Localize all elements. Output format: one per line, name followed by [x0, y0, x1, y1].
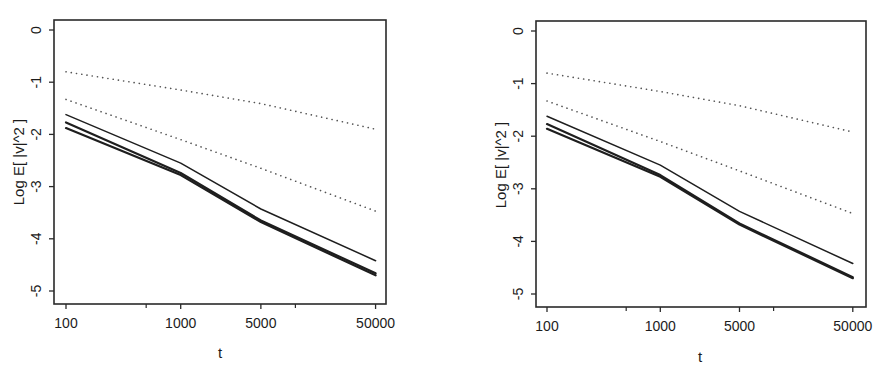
y-tick-label: -4: [510, 235, 526, 248]
y-tick-label: -3: [510, 182, 526, 195]
y-axis-label: Log E[ |v|^2 ]: [10, 119, 27, 206]
series-layer: [547, 73, 853, 278]
series-solid-upper: [66, 115, 376, 261]
y-tick-label: -3: [28, 180, 44, 193]
series-dotted-lower: [66, 99, 376, 211]
series-dotted-upper: [547, 73, 853, 132]
figure: 1001000500050000 0-1-2-3-4-5 t Log E[ |v…: [0, 0, 881, 372]
y-tick-label: -5: [28, 285, 44, 298]
x-axis: 1001000500050000: [535, 307, 872, 334]
x-tick-label: 1000: [165, 315, 196, 331]
y-tick-label: -5: [510, 288, 526, 301]
x-tick-label: 50000: [833, 318, 872, 334]
x-tick-label: 5000: [245, 315, 276, 331]
y-tick-label: -1: [510, 77, 526, 90]
y-axis-label: Log E[ |v|^2 ]: [492, 122, 509, 209]
y-tick-label: -2: [28, 128, 44, 141]
y-tick-label: 0: [510, 27, 526, 35]
x-tick-label: 5000: [724, 318, 755, 334]
y-tick-label: -1: [28, 76, 44, 89]
x-axis-label: t: [698, 348, 703, 365]
x-tick-label: 100: [54, 315, 78, 331]
series-solid-lower: [547, 129, 853, 278]
x-tick-label: 50000: [356, 315, 395, 331]
series-dotted-upper: [66, 72, 376, 129]
y-axis: 0-1-2-3-4-5: [28, 26, 54, 297]
series-dotted-lower: [547, 101, 853, 214]
x-tick-label: 1000: [645, 318, 676, 334]
x-axis: 1001000500050000: [54, 304, 395, 331]
x-tick-label: 100: [535, 318, 559, 334]
left-chart-panel: 1001000500050000 0-1-2-3-4-5 t Log E[ |v…: [10, 20, 395, 361]
series-layer: [66, 72, 376, 275]
series-solid-lower: [66, 128, 376, 275]
plot-frame: [536, 21, 866, 307]
plot-frame: [54, 20, 386, 304]
y-axis: 0-1-2-3-4-5: [510, 27, 536, 300]
y-tick-label: -2: [510, 130, 526, 143]
right-chart-panel: 1001000500050000 0-1-2-3-4-5 t Log E[ |v…: [492, 21, 872, 365]
y-tick-label: 0: [28, 26, 44, 34]
y-tick-label: -4: [28, 232, 44, 245]
x-axis-label: t: [218, 344, 223, 361]
series-solid-upper: [547, 116, 853, 263]
